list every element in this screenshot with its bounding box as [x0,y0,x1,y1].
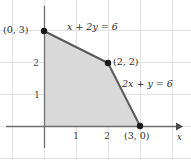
point-2-2-label: (2, 2) [113,57,139,67]
point-0-3-dot [41,28,47,34]
y-tick-label-2: 2 [33,58,39,68]
y-tick-label-1: 1 [34,90,40,100]
point-0-3-label: (0, 3) [3,25,29,35]
equation-2x-plus-y-label: 2x + y = 6 [122,79,173,89]
point-3-0-dot [137,123,143,129]
x-tick-label-1: 1 [73,131,79,141]
equation-x-plus-2y-label: x + 2y = 6 [67,22,118,32]
x-axis-label: x [177,133,182,142]
point-3-0-label: (3, 0) [124,131,150,141]
x-tick-label-2: 2 [104,131,110,141]
point-2-2-dot [105,60,111,66]
graph-figure: (0, 3) (2, 2) (3, 0) x + 2y = 6 2x + y =… [0,0,191,160]
